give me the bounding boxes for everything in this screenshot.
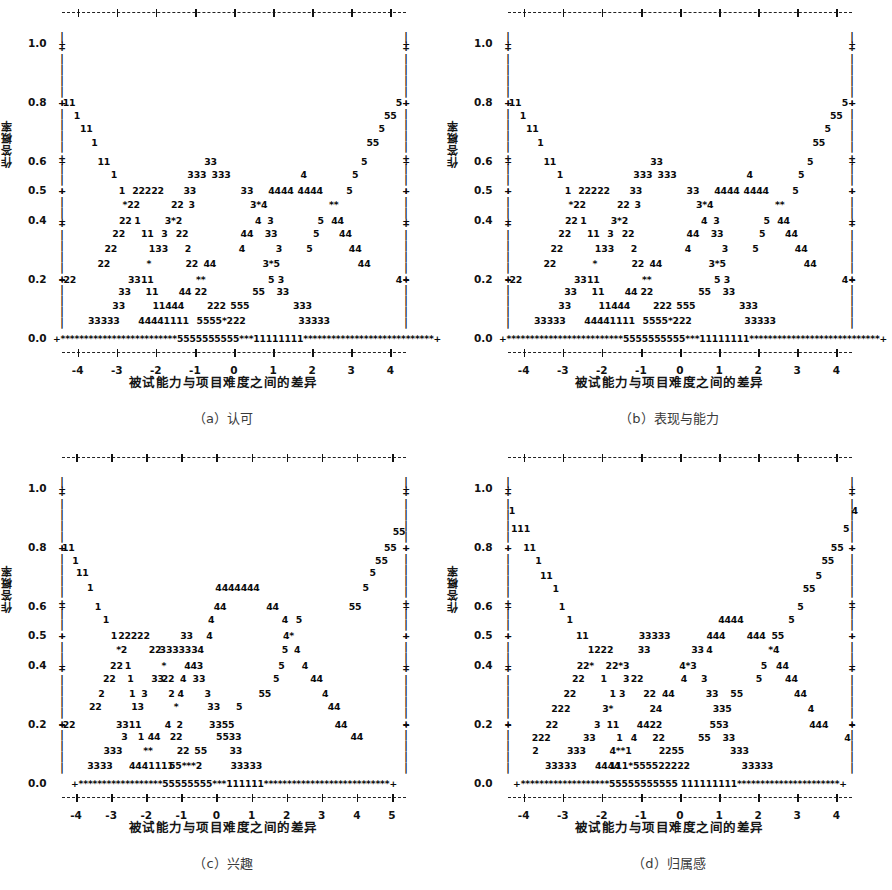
plot-area-b: 1.00.80.60.50.40.20.0 -4-3-2-101234 |+||… bbox=[508, 28, 852, 338]
plot-char: 1 bbox=[610, 687, 616, 698]
top-axis-tick bbox=[78, 9, 80, 17]
plot-char: 44441111 bbox=[138, 314, 189, 325]
spine-glyph: | bbox=[504, 685, 513, 696]
bottom-axis-tick bbox=[563, 349, 565, 357]
y-axis-tick-label: 0.2 bbox=[474, 718, 493, 730]
spine-glyph: | bbox=[504, 306, 513, 317]
spine-glyph: | bbox=[402, 53, 411, 64]
plot-char: 5 bbox=[318, 214, 324, 225]
plot-char: 44 bbox=[649, 257, 662, 268]
plot-char: 5 bbox=[798, 169, 804, 180]
spine-glyph: | bbox=[504, 751, 513, 762]
plot-char: 3 bbox=[594, 718, 600, 729]
plot-char: 3 bbox=[724, 273, 730, 284]
plot-area-c: 1.00.80.60.50.40.20.0 -4-3-2-1012345 |+|… bbox=[62, 473, 406, 783]
spine-glyph: | bbox=[58, 108, 67, 119]
plot-char: 55 bbox=[831, 541, 844, 552]
plot-char: 4 bbox=[165, 718, 171, 729]
plot-char: 11 bbox=[509, 96, 522, 107]
plot-char: + bbox=[402, 273, 410, 284]
plot-char: 4444 bbox=[718, 614, 743, 625]
plot-char: + bbox=[58, 600, 66, 611]
plot-char: 33 bbox=[207, 701, 220, 712]
plot-char: 3 bbox=[161, 228, 167, 239]
plot-char: 333 bbox=[103, 744, 122, 755]
plot-char: 1 bbox=[520, 110, 526, 121]
plot-char: 3 bbox=[607, 228, 613, 239]
plot-char: 11 bbox=[526, 123, 539, 134]
plot-char: 33 bbox=[204, 155, 217, 166]
spine-glyph: | bbox=[848, 306, 857, 317]
plot-char: 2 bbox=[185, 242, 191, 253]
y-axis-tick-label: 0.0 bbox=[474, 777, 493, 789]
spine-glyph: | bbox=[848, 641, 857, 652]
plot-char: 55 bbox=[384, 541, 397, 552]
plot-char: 333 bbox=[739, 299, 758, 310]
y-axis-tick-label: 0.6 bbox=[474, 155, 493, 167]
plot-char: 335 bbox=[713, 702, 732, 713]
plot-char: 11 bbox=[80, 123, 93, 134]
spine-glyph: | bbox=[58, 729, 67, 740]
plot-char: 22 bbox=[543, 257, 556, 268]
spine-glyph: | bbox=[504, 674, 513, 685]
spine-glyph: | bbox=[402, 75, 411, 86]
plot-char: 55 bbox=[771, 630, 784, 641]
spine-glyph: | bbox=[504, 229, 513, 240]
spine-glyph: | bbox=[402, 196, 411, 207]
spine-glyph: | bbox=[402, 229, 411, 240]
plot-char: 55 bbox=[259, 687, 272, 698]
plot-char: 1 bbox=[138, 731, 144, 742]
spine-glyph: | bbox=[402, 641, 411, 652]
plot-char: 22 bbox=[572, 673, 585, 684]
spine-glyph: | bbox=[402, 762, 411, 773]
plot-char: * bbox=[161, 659, 166, 670]
plot-char: 1 bbox=[95, 600, 101, 611]
plot-char: 5 bbox=[306, 242, 312, 253]
plot-char: 33333 bbox=[230, 759, 262, 770]
bottom-axis-tick bbox=[680, 349, 682, 357]
plot-char: 2 bbox=[631, 242, 637, 253]
spine-glyph: | bbox=[504, 575, 513, 586]
plot-char: 4444 bbox=[714, 185, 739, 196]
plot-char: 55 bbox=[194, 744, 207, 755]
plot-char: 22 bbox=[563, 687, 576, 698]
plot-char: 22 bbox=[103, 673, 116, 684]
plot-char: + bbox=[58, 214, 66, 225]
plot-char: + bbox=[58, 185, 66, 196]
plot-char: 3 bbox=[205, 687, 211, 698]
plot-char: 4 bbox=[844, 732, 850, 743]
spine-glyph: | bbox=[504, 130, 513, 141]
top-axis-tick bbox=[797, 454, 799, 462]
plot-char: 555 bbox=[230, 299, 249, 310]
panel-b: 1.00.80.60.50.40.20.0 -4-3-2-101234 |+||… bbox=[446, 0, 892, 445]
y-axis-tick-label: 0.4 bbox=[474, 659, 493, 671]
plot-char: 11 bbox=[141, 273, 154, 284]
plot-char: + bbox=[504, 155, 512, 166]
y-axis-tick-label: 0.0 bbox=[28, 777, 47, 789]
bottom-axis-tick bbox=[287, 794, 289, 802]
plot-char: 333 bbox=[160, 643, 179, 654]
x-axis-label-d: 被试能力与项目难度之间的差异 bbox=[446, 817, 892, 836]
bottom-axis-tick bbox=[195, 349, 197, 357]
plot-char: 4 bbox=[208, 614, 214, 625]
spine-glyph: | bbox=[58, 251, 67, 262]
plot-char: 33 bbox=[277, 286, 290, 297]
plot-char: + bbox=[402, 155, 410, 166]
top-axis-tick bbox=[719, 454, 721, 462]
plot-char: 33 bbox=[265, 228, 278, 239]
figure-root: 1.00.80.60.50.40.20.0 -4-3-2-101234 |+||… bbox=[0, 0, 892, 890]
plot-char: 1 bbox=[125, 659, 131, 670]
y-axis-tick-label: 0.0 bbox=[474, 332, 493, 344]
top-axis-tick bbox=[719, 9, 721, 17]
plot-char: 4444444 bbox=[215, 581, 259, 592]
panel-c: 1.00.80.60.50.40.20.0 -4-3-2-1012345 |+|… bbox=[0, 445, 446, 890]
plot-char: 11 bbox=[62, 541, 75, 552]
plot-char: 4 bbox=[294, 643, 300, 654]
plot-char: 44441111 bbox=[584, 314, 635, 325]
plot-char: 3334 bbox=[179, 643, 204, 654]
plot-char: 33 bbox=[193, 673, 206, 684]
spine-glyph: | bbox=[504, 729, 513, 740]
bottom-axis-tick bbox=[719, 349, 721, 357]
plot-char: 3311 bbox=[116, 718, 141, 729]
top-axis-c bbox=[62, 457, 406, 462]
